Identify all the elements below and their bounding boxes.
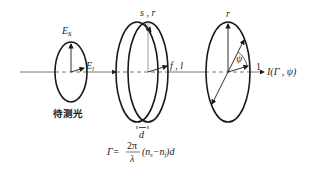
- svg-text:λ: λ: [129, 153, 135, 164]
- analyzer-vector-down: [212, 72, 228, 104]
- svg-text:2π: 2π: [127, 140, 137, 151]
- label-intensity: I(Γ , ψ): [266, 66, 297, 78]
- label-output-mark: 1: [256, 61, 261, 72]
- retardation-formula: Γ= 2π λ (ns−nf)d: [106, 140, 175, 164]
- label-s-r: s , r: [140, 7, 155, 18]
- svg-text:(ns−nf)d: (ns−nf)d: [142, 146, 175, 158]
- label-f-l: f , l: [170, 60, 183, 71]
- output-light-ellipse: r ψ 1 I(Γ , ψ): [206, 8, 297, 122]
- el-vector: [71, 68, 84, 72]
- label-r: r: [226, 8, 230, 19]
- label-thickness: d: [139, 129, 145, 140]
- wave-plate: s , r f , l d: [116, 7, 183, 140]
- label-psi: ψ: [236, 53, 243, 64]
- birefringence-diagram: Es El 待测光 s , r f , l d r ψ 1 I(Γ , ψ) Γ…: [0, 0, 312, 176]
- svg-text:Γ=: Γ=: [106, 146, 119, 157]
- label-es: Es: [61, 25, 72, 38]
- caption-incident-light: 待测光: [53, 108, 83, 119]
